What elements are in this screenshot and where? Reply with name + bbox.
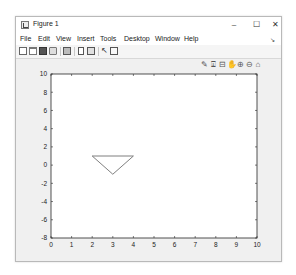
x-tick-label: 10	[253, 241, 261, 248]
x-tick-label: 9	[235, 241, 239, 248]
y-tick-label: -2	[41, 180, 47, 187]
y-tick-label: -8	[41, 234, 47, 241]
y-tick-label: 0	[43, 161, 47, 168]
x-tick-label: 6	[173, 241, 177, 248]
x-tick-label: 1	[70, 241, 74, 248]
axes-box	[51, 74, 257, 238]
x-tick-label: 2	[90, 241, 94, 248]
x-tick-label: 3	[111, 241, 115, 248]
y-tick-label: 4	[43, 125, 47, 132]
y-tick-label: 8	[43, 89, 47, 96]
y-tick-label: -6	[41, 216, 47, 223]
plot-axes[interactable]: 012345678910-8-6-4-20246810	[0, 0, 296, 275]
x-tick-label: 0	[49, 241, 53, 248]
y-tick-label: 6	[43, 107, 47, 114]
x-tick-label: 7	[193, 241, 197, 248]
y-tick-label: 2	[43, 143, 47, 150]
x-tick-label: 5	[152, 241, 156, 248]
x-tick-label: 8	[214, 241, 218, 248]
y-tick-label: 10	[40, 70, 48, 77]
y-tick-label: -4	[41, 198, 47, 205]
x-tick-label: 4	[132, 241, 136, 248]
